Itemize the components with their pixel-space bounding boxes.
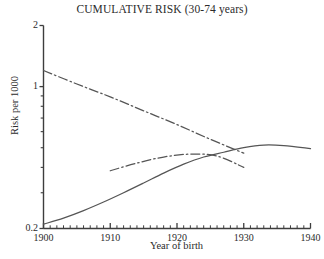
x-tick-label: 1930 [220,232,268,243]
x-tick-label: 1920 [153,232,201,243]
cumulative-risk-chart: CUMULATIVE RISK (30-74 years) Risk per 1… [0,0,324,259]
series-line-declining-dashdot [44,71,244,154]
x-tick-label: 1910 [86,232,134,243]
x-tick-label: 1900 [20,232,68,243]
plot-area [0,0,324,259]
series-line-rising-solid [44,145,311,224]
y-tick-label: 1 [4,80,38,91]
series-line-middle-dashdot [110,154,244,171]
y-tick-label: 2 [4,19,38,30]
x-tick-label: 1940 [287,232,324,243]
